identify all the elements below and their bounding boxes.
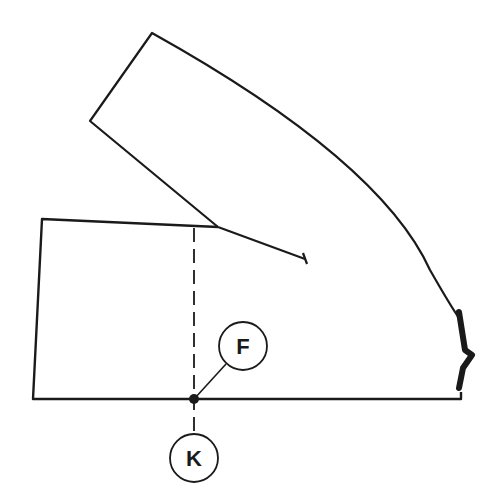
slash-line [218, 227, 305, 259]
label-f: F [236, 334, 249, 359]
armhole-notch-mark [459, 312, 472, 388]
pattern-diagram: F K [0, 0, 498, 498]
label-k-callout: K [170, 434, 218, 482]
upper-pattern-piece-outline [90, 33, 459, 318]
label-k: K [186, 446, 202, 471]
leader-line-f [195, 364, 226, 398]
lower-pattern-piece-outline [33, 219, 461, 399]
label-f-callout: F [219, 322, 267, 370]
